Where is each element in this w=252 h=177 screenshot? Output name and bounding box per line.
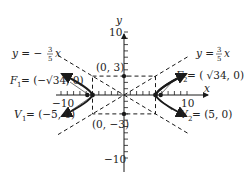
vertex1-point <box>90 93 95 98</box>
vertex2-point <box>153 93 158 98</box>
vertex1-label: V 1 = (−5, 0) <box>14 108 75 123</box>
y-axis-label: y <box>115 14 123 26</box>
svg-text:3: 3 <box>48 46 52 54</box>
co-vertex-top-label: (0, 3) <box>96 61 124 73</box>
x-axis-label: x <box>204 82 210 94</box>
hyperbola-diagram: y x 10 −10 10 −10 (0, 3) (0, −3) y = − 3… <box>0 0 252 177</box>
co-vertex-top-point <box>122 74 126 78</box>
vertex2-label: V 2 = (5, 0) <box>180 108 232 123</box>
svg-text:5: 5 <box>217 55 221 63</box>
svg-text:= (−√34, 0): = (−√34, 0) <box>21 74 84 86</box>
co-vertex-bottom-label: (0, −3) <box>92 118 129 130</box>
svg-text:y =: y = <box>195 47 214 59</box>
svg-text:3: 3 <box>217 46 221 54</box>
focus1-point <box>85 93 89 97</box>
svg-text:x: x <box>55 47 61 59</box>
svg-text:x: x <box>224 47 230 59</box>
asymptote-negative-label: y = − 3 5 x <box>11 46 61 63</box>
focus1-label: F 1 = (−√34, 0) <box>9 74 84 89</box>
y-tick-label-neg10: −10 <box>104 153 126 165</box>
svg-text:y = −: y = − <box>11 47 42 59</box>
svg-text:5: 5 <box>48 55 52 63</box>
svg-text:= (5, 0): = (5, 0) <box>192 108 232 120</box>
y-tick-label-10: 10 <box>109 26 122 38</box>
asymptote-positive-label: y = 3 5 x <box>195 46 230 63</box>
focus2-point <box>159 93 163 97</box>
svg-text:= (−5, 0): = (−5, 0) <box>26 108 75 120</box>
svg-text:= ( √34, 0): = ( √34, 0) <box>187 69 244 81</box>
co-vertex-bottom-point <box>122 112 126 116</box>
